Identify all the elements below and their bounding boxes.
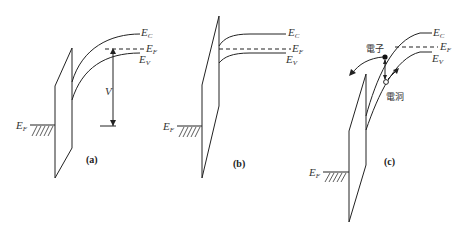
voltage-label: V — [105, 85, 113, 97]
panel-b: EF EC EF EV (b) — [162, 16, 304, 178]
oxide-layer — [55, 48, 72, 178]
valence-band-edge — [366, 52, 432, 130]
oxide-layer — [202, 16, 219, 178]
metal-ef-label: EF — [308, 166, 321, 180]
panel-a: EF V EC EF EV (a) — [15, 26, 158, 178]
metal-ef-label: EF — [15, 119, 28, 133]
panel-b-caption: (b) — [233, 158, 245, 170]
ef-label: EF — [439, 40, 452, 54]
ec-label: EC — [140, 26, 153, 40]
metal-hatch — [325, 173, 346, 182]
electron-label: 電子 — [366, 44, 384, 54]
valence-band-edge — [219, 53, 286, 63]
ef-label: EF — [145, 42, 158, 56]
ec-label: EC — [287, 26, 300, 40]
metal-hatch — [32, 126, 53, 136]
electron-path — [352, 57, 383, 74]
oxide-layer — [349, 74, 366, 222]
conduction-band-edge — [219, 34, 286, 46]
electron-dot-icon — [382, 54, 387, 59]
conduction-band-edge — [72, 34, 140, 82]
panel-c: EF 電子 電洞 EC EF EV (c) — [308, 26, 452, 222]
voltage-arrow-down-icon — [110, 120, 116, 126]
ef-label: EF — [291, 42, 304, 56]
ev-label: EV — [285, 53, 298, 67]
arrow-up-icon — [383, 59, 387, 64]
metal-ef-label: EF — [162, 120, 175, 134]
ev-label: EV — [431, 52, 444, 66]
ev-label: EV — [138, 53, 151, 67]
panel-a-caption: (a) — [86, 154, 98, 166]
band-diagram-figure: EF V EC EF EV (a) EF EC EF — [0, 0, 464, 238]
metal-hatch — [179, 127, 200, 137]
panel-c-caption: (c) — [384, 156, 395, 168]
hole-circle-icon — [384, 80, 389, 85]
ec-label: EC — [432, 26, 445, 40]
hole-label: 電洞 — [386, 92, 404, 102]
